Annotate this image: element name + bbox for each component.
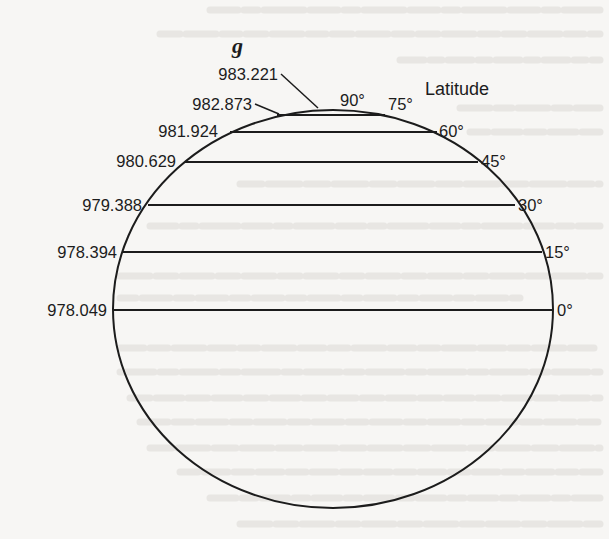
- latitude-label-0: 0°: [557, 301, 573, 319]
- latitude-label-30: 30°: [518, 196, 543, 214]
- gravity-value-15: 978.394: [57, 243, 117, 261]
- latitude-label-90: 90°: [340, 91, 365, 109]
- latitude-label-75: 75°: [388, 95, 413, 113]
- gravity-symbol: g: [231, 33, 243, 58]
- latitude-label-60: 60°: [439, 122, 464, 140]
- gravity-value-90: 983.221: [218, 65, 278, 83]
- latitude-title: Latitude: [425, 79, 489, 99]
- latitude-label-45: 45°: [481, 152, 506, 170]
- leader-line-90: [281, 74, 318, 108]
- gravity-value-0: 978.049: [47, 301, 107, 319]
- gravity-value-45: 980.629: [116, 152, 176, 170]
- latitude-label-15: 15°: [545, 243, 570, 261]
- gravity-value-30: 979.388: [82, 196, 142, 214]
- earth-gravity-diagram: g Latitude 983.221 982.873 981.924 980.6…: [0, 0, 609, 539]
- gravity-value-75: 982.873: [192, 95, 252, 113]
- gravity-value-60: 981.924: [158, 122, 218, 140]
- leader-line-75: [255, 104, 279, 114]
